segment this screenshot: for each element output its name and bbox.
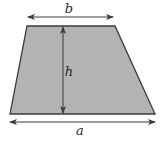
top-base-label: b: [65, 1, 73, 16]
bottom-base-label: a: [76, 123, 84, 138]
trapezoid-shape: [10, 26, 155, 114]
trapezoid-diagram: b h a: [0, 0, 162, 141]
height-label: h: [65, 64, 73, 79]
